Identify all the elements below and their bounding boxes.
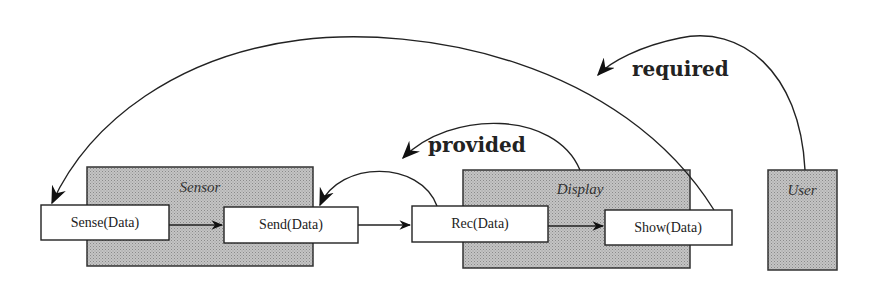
node-sense-label: Sense(Data) <box>71 215 140 231</box>
node-show[interactable]: Show(Data) <box>605 210 732 245</box>
node-send[interactable]: Send(Data) <box>224 207 358 243</box>
edge-rec-to-send-arc <box>320 171 437 206</box>
edge-label-provided: provided <box>428 133 526 157</box>
edge-label-required: required <box>632 57 729 81</box>
node-send-label: Send(Data) <box>259 217 323 233</box>
node-rec-label: Rec(Data) <box>451 216 509 232</box>
edge-user-required <box>598 36 805 170</box>
display-group-label: Display <box>556 181 604 197</box>
diagram-canvas: Sensor Display User provided required Se… <box>0 0 877 289</box>
user-group-label: User <box>787 182 816 198</box>
user-group[interactable]: User <box>768 170 837 270</box>
sensor-group-label: Sensor <box>180 179 221 195</box>
node-sense[interactable]: Sense(Data) <box>41 205 169 240</box>
node-show-label: Show(Data) <box>634 220 702 236</box>
node-rec[interactable]: Rec(Data) <box>412 206 548 242</box>
